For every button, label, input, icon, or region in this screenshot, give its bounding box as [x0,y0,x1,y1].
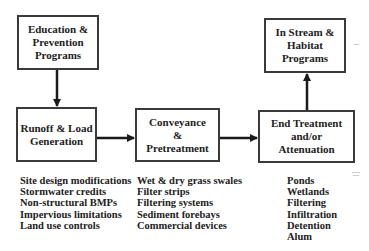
box-label-line: Attenuation [271,143,342,156]
list-item: Non-structural BMPs [20,197,131,208]
scan-artifact [354,44,359,45]
box-label-line: Conveyance [146,116,209,129]
list-item: Impervious limitations [20,209,131,220]
box-runoff-load: Runoff & Load Generation [16,107,97,162]
box-label-line: Programs [275,52,334,65]
list-item: Sediment forebays [137,209,242,220]
list-item: Ponds [287,175,337,186]
list-item: Commercial devices [137,220,242,231]
list-item: Land use controls [20,220,131,231]
box-conveyance-pretreatment: Conveyance & Pretreatment [135,108,220,162]
scan-artifact [353,175,359,176]
list-item: Wet & dry grass swales [137,175,242,186]
runoff-practices-list: Site design modifications Stormwater cre… [20,175,131,231]
list-item: Filter strips [137,186,242,197]
list-item: Alum [287,231,337,242]
box-in-stream-habitat: In Stream & Habitat Programs [264,18,346,73]
box-label-line: & [146,129,209,142]
list-item: Filtering systems [137,197,242,208]
box-label-line: Prevention [28,36,88,49]
box-label-line: Pretreatment [146,142,209,155]
box-label-line: Habitat [275,39,334,52]
box-label-line: End Treatment [271,117,342,130]
list-item: Infiltration [287,209,337,220]
list-item: Site design modifications [20,175,131,186]
conveyance-practices-list: Wet & dry grass swales Filter strips Fil… [137,175,242,231]
list-item: Wetlands [287,186,337,197]
list-item: Stormwater credits [20,186,131,197]
scan-artifact [352,172,360,173]
box-end-treatment: End Treatment and/or Attenuation [258,110,355,163]
end-treatment-practices-list: Ponds Wetlands Filtering Infiltration De… [287,175,337,242]
box-label-line: Generation [20,135,92,148]
box-label-line: Education & [28,23,88,36]
box-label-line: In Stream & [275,26,334,39]
list-item: Filtering [287,197,337,208]
box-label-line: and/or [271,130,342,143]
box-label-line: Programs [28,49,88,62]
box-label-line: Runoff & Load [20,122,92,135]
box-education-prevention: Education & Prevention Programs [17,15,99,70]
list-item: Detention [287,220,337,231]
